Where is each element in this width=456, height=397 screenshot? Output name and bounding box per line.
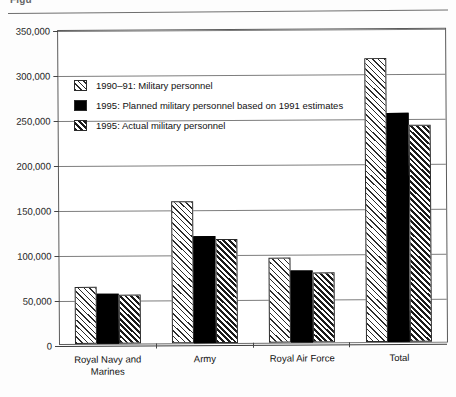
y-axis-tick-label: 100,000 (17, 251, 51, 262)
legend-swatch-icon (74, 80, 87, 91)
figure-title: Figu (10, 0, 32, 5)
legend-item[interactable]: 1995: Actual military personnel (74, 120, 343, 131)
x-axis-labels: Royal Navy and MarinesArmyRoyal Air Forc… (59, 348, 448, 392)
x-axis-label: Total (351, 348, 449, 391)
bar[interactable] (97, 293, 119, 344)
y-axis-tick-label: 0 (47, 341, 52, 352)
bar[interactable] (408, 125, 431, 342)
legend-item-label: 1990–91: Military personnel (96, 80, 213, 91)
y-axis-tick-label: 200,000 (17, 161, 51, 172)
legend-swatch-icon (74, 120, 87, 131)
title-divider (8, 10, 448, 14)
bar[interactable] (193, 236, 216, 343)
y-axis-tick-label: 50,000 (23, 296, 52, 307)
legend-swatch-icon (74, 100, 87, 111)
y-axis-tick-label: 300,000 (16, 71, 50, 82)
x-axis-separator (349, 342, 350, 347)
legend-item[interactable]: 1995: Planned military personnel based o… (74, 100, 343, 111)
y-axis-tick (55, 346, 60, 347)
chart-legend: 1990–91: Military personnel1995: Planned… (74, 80, 343, 131)
x-axis-label: Royal Navy and Marines (59, 349, 157, 392)
x-axis-label: Royal Air Force (253, 348, 351, 391)
x-axis-separator (252, 343, 253, 348)
legend-item-label: 1995: Planned military personnel based o… (96, 100, 343, 111)
chart-plot-area: 350,000300,000250,000200,000150,000100,0… (57, 28, 448, 345)
bar-group (155, 30, 254, 344)
y-axis-tick-label: 350,000 (16, 26, 50, 37)
x-axis-separator (156, 343, 157, 348)
figure-container: Figu 350,000300,000250,000200,000150,000… (0, 0, 456, 397)
bar[interactable] (312, 272, 334, 342)
bar-group (58, 30, 157, 344)
legend-item-label: 1995: Actual military personnel (96, 120, 225, 131)
bar[interactable] (386, 113, 409, 342)
bar-groups (58, 29, 447, 344)
bar[interactable] (119, 295, 141, 344)
bar[interactable] (290, 270, 312, 342)
bar-group (348, 29, 447, 343)
bar[interactable] (364, 58, 388, 343)
bar[interactable] (215, 239, 238, 344)
y-axis-tick-label: 150,000 (17, 206, 51, 217)
bar-group (252, 29, 351, 343)
x-axis-label: Army (156, 349, 254, 392)
legend-item[interactable]: 1990–91: Military personnel (74, 80, 343, 91)
bar[interactable] (268, 257, 291, 343)
y-axis-tick-label: 250,000 (16, 116, 50, 127)
bar[interactable] (75, 287, 97, 344)
bar[interactable] (171, 201, 194, 343)
